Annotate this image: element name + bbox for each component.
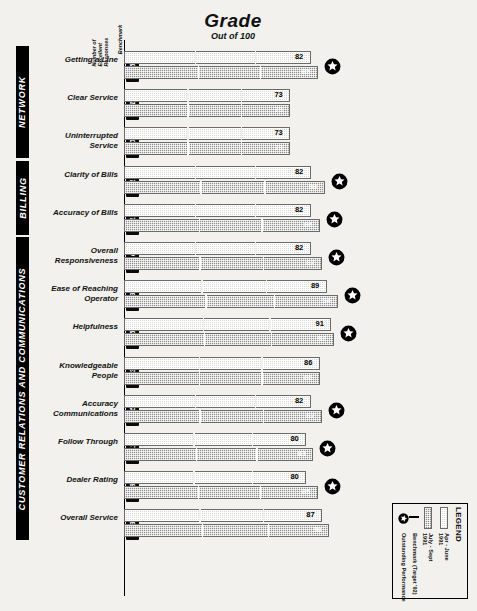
bar-band-separator [264, 181, 265, 194]
bar-band-separator [263, 410, 264, 423]
bar-band-separator [255, 242, 256, 255]
bar-value-q2: 86 [304, 220, 312, 229]
grade-title-sub: Out of 100 [168, 31, 298, 41]
page-title: Grade Out of 100 [168, 10, 298, 41]
group-label-billing: BILLING [16, 161, 29, 235]
row-label: Helpfulness [44, 322, 118, 332]
bar-q2 [124, 524, 329, 537]
bar-band-separator [201, 280, 202, 293]
chart-row: Helpfulness+545559192 [44, 315, 444, 353]
bar-q1 [124, 51, 311, 64]
bar-band-separator [203, 318, 204, 331]
bar-q2 [124, 486, 318, 499]
chart-row: Overall Service+330358790 [44, 506, 444, 544]
bar-q2 [124, 372, 320, 385]
star-icon [326, 211, 343, 228]
bar-q2 [124, 142, 290, 155]
legend-item: Apr - June 1991 [437, 507, 450, 595]
bar-band-separator [195, 204, 196, 217]
chart-row: Dealer Rating+836368085 [44, 468, 444, 506]
row-label: Follow Through [44, 437, 118, 447]
legend-item-label: Outstanding Performance [400, 533, 406, 602]
bar-band-separator [198, 486, 199, 499]
bar-band-separator [255, 51, 256, 64]
bar-band-separator [195, 51, 196, 64]
star-icon [319, 440, 336, 457]
bar-value-q2: 83 [297, 449, 305, 458]
bar-q2 [124, 448, 313, 461]
row-label: Accuracy of Bills [44, 208, 118, 218]
benchmark-value: 82 [295, 205, 303, 214]
bar-band-separator [199, 357, 200, 370]
bar-value-q2: 94 [322, 296, 330, 305]
bar-band-separator [261, 372, 262, 385]
bar-band-separator [195, 242, 196, 255]
bar-q1 [124, 127, 290, 140]
row-label: Clear Service [44, 93, 118, 103]
bar-band-separator [268, 524, 269, 537]
bar-q1 [124, 433, 306, 446]
bar-q2 [124, 219, 320, 232]
bar-q1 [124, 509, 322, 522]
bar-q2 [124, 333, 334, 346]
bar-band-separator [187, 127, 188, 140]
bar-q2 [124, 410, 322, 423]
bar-q2 [124, 66, 318, 79]
bar-q1 [124, 357, 320, 370]
star-icon [328, 402, 345, 419]
bar-band-separator [261, 357, 262, 370]
bar-band-separator [199, 509, 200, 522]
legend-item: July - Sept 1991 [421, 507, 434, 595]
legend-item-label: Apr - June 1991 [437, 533, 450, 561]
bar-value-q2: 85 [302, 67, 310, 76]
bar-value-q2: 90 [313, 525, 321, 534]
bar-band-separator [271, 333, 272, 346]
benchmark-value: 82 [295, 396, 303, 405]
bar-value-q2: 92 [318, 334, 326, 343]
group-label-text: CUSTOMER RELATIONS AND COMMUNICATIONS [18, 267, 28, 510]
group-label-text: BILLING [18, 177, 28, 219]
bar-band-separator [205, 295, 206, 308]
group-label-text: NETWORK [18, 76, 28, 128]
bar-band-separator [252, 433, 253, 446]
bar-band-separator [199, 410, 200, 423]
bar-band-separator [269, 318, 270, 331]
chart-row: Getting a Line+558538285 [44, 48, 444, 86]
bar-band-separator [187, 142, 188, 155]
bar-q2 [124, 295, 338, 308]
legend-item-label: July - Sept 1991 [421, 533, 434, 561]
bar-band-separator [260, 66, 261, 79]
bar-band-separator [255, 204, 256, 217]
group-label-customer-relations-and-communications: CUSTOMER RELATIONS AND COMMUNICATIONS [16, 237, 29, 540]
benchmark-value: 82 [295, 52, 303, 61]
legend: LEGEND Apr - June 1991July - Sept 1991Be… [392, 503, 468, 599]
star-icon [324, 478, 341, 495]
bar-value-q2: 73 [274, 105, 282, 114]
chart-page: Number of Excellent Responses Benchmark … [0, 0, 477, 611]
swatch-q1-icon [440, 507, 448, 529]
bar-q1 [124, 166, 311, 179]
bar-band-separator [260, 486, 261, 499]
row-label: Dealer Rating [44, 475, 118, 485]
benchmark-value: 91 [315, 319, 323, 328]
row-label: Overall Service [44, 513, 118, 523]
bar-band-separator [187, 104, 188, 117]
chart-row: Overall Responsiveness+1036468287 [44, 239, 444, 277]
benchmark-value: 89 [311, 281, 319, 290]
chart-row: Clear Service+117207373 [44, 86, 444, 124]
bar-value-q2: 73 [274, 143, 282, 152]
benchmark-value: 86 [304, 358, 312, 367]
legend-item: Benchmark (Target '92) [410, 507, 418, 595]
bar-band-separator [195, 395, 196, 408]
benchmark-value: 82 [295, 243, 303, 252]
bar-q2 [124, 104, 290, 117]
star-icon [340, 325, 357, 342]
bar-band-separator [256, 448, 257, 461]
bar-band-separator [252, 471, 253, 484]
star-icon [331, 173, 348, 190]
benchmark-line-icon [410, 507, 418, 529]
bar-band-separator [255, 166, 256, 179]
row-label: Ease of Reaching Operator [44, 284, 118, 304]
row-label: Clarity of Bills [44, 170, 118, 180]
chart-row: Clarity of Bills+1724418288 [44, 163, 444, 201]
